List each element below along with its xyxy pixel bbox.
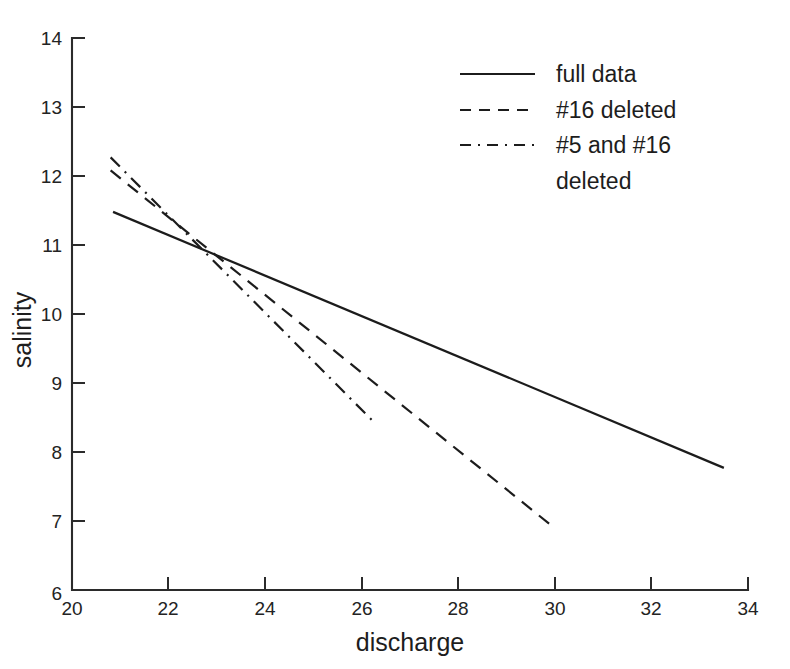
legend: full data #16 deleted #5 and #16 deleted: [460, 61, 676, 194]
y-tick-label: 14: [41, 28, 63, 49]
y-tick-label: 6: [51, 583, 62, 604]
x-tick-label: 20: [61, 598, 82, 619]
y-tick-label: 12: [41, 166, 62, 187]
y-tick-label: 7: [51, 511, 62, 532]
salinity-discharge-chart: 14 13 12 11 10 9 8 7 6 20 22 24 26 28: [0, 0, 790, 669]
x-tick-label: 26: [351, 598, 372, 619]
y-tick-label: 11: [42, 235, 62, 256]
y-axis-ticks: [72, 38, 85, 590]
x-tick-label: 34: [737, 598, 759, 619]
x-axis-ticks: [72, 577, 748, 590]
x-axis-title: discharge: [356, 628, 464, 656]
x-tick-label: 24: [254, 598, 276, 619]
y-tick-label: 13: [41, 97, 62, 118]
y-axis-tick-labels: 14 13 12 11 10 9 8 7 6: [41, 28, 63, 604]
y-tick-label: 9: [51, 373, 62, 394]
legend-label-full-data: full data: [556, 61, 637, 87]
x-tick-label: 28: [447, 598, 468, 619]
series-line-full-data: [113, 212, 724, 468]
legend-label-5-and-16-deleted: #5 and #16: [556, 132, 671, 158]
x-axis-tick-labels: 20 22 24 26 28 30 32 34: [61, 598, 759, 619]
x-tick-label: 30: [544, 598, 565, 619]
x-tick-label: 22: [157, 598, 178, 619]
chart-figure: 14 13 12 11 10 9 8 7 6 20 22 24 26 28: [0, 0, 790, 669]
y-tick-label: 8: [51, 442, 62, 463]
legend-label-16-deleted: #16 deleted: [556, 97, 676, 123]
x-tick-label: 32: [640, 598, 661, 619]
y-tick-label: 10: [41, 304, 62, 325]
y-axis-title: salinity: [8, 291, 36, 368]
legend-label-5-and-16-deleted-continuation: deleted: [556, 168, 631, 194]
series-line-5-and-16-deleted: [111, 157, 377, 424]
